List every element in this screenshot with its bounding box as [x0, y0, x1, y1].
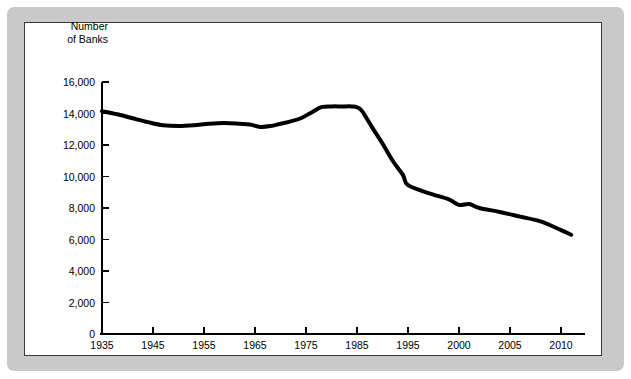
y-axis-tick-label-7: 14,000 [39, 108, 95, 120]
y-axis-tick-label-6: 12,000 [39, 139, 95, 151]
x-axis-tick-label-9: 2010 [531, 339, 591, 351]
y-axis-title: Number of Banks [28, 20, 108, 46]
y-axis-tick-label-4: 8,000 [39, 202, 95, 214]
y-axis-tick-label-2: 4,000 [39, 265, 95, 277]
chart-panel [24, 22, 602, 356]
y-axis-tick-label-5: 10,000 [39, 171, 95, 183]
figure-root: Number of Banks 02,0004,0006,0008,00010,… [0, 0, 631, 379]
y-axis-tick-label-3: 6,000 [39, 234, 95, 246]
y-axis-tick-label-1: 2,000 [39, 297, 95, 309]
y-axis-tick-label-8: 16,000 [39, 76, 95, 88]
